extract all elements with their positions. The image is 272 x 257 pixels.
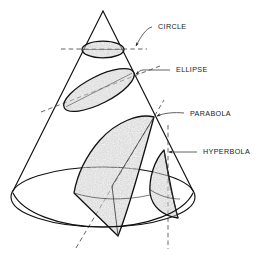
conic-sections-diagram: CIRCLE ELLIPSE PARABOLA HYPERBOLA [0, 0, 272, 257]
hyperbola-section [149, 150, 180, 218]
parabola-section [74, 116, 154, 236]
ellipse-section [58, 60, 140, 119]
annotation-layer: CIRCLE ELLIPSE PARABOLA HYPERBOLA [136, 22, 250, 156]
parabola-leader-line [157, 113, 184, 116]
conic-sections-figure: CIRCLE ELLIPSE PARABOLA HYPERBOLA [0, 0, 272, 257]
annotation-hyperbola[interactable]: HYPERBOLA [169, 147, 250, 156]
label-circle: CIRCLE [158, 22, 186, 31]
annotation-circle[interactable]: CIRCLE [136, 22, 186, 46]
annotation-ellipse[interactable]: ELLIPSE [136, 65, 208, 74]
label-parabola: PARABOLA [190, 109, 231, 118]
annotation-parabola[interactable]: PARABOLA [157, 109, 231, 118]
circle-leader-line [136, 27, 152, 46]
label-ellipse: ELLIPSE [176, 65, 208, 74]
ellipse-leader-line [136, 70, 170, 74]
parabola-section-fill [74, 116, 154, 236]
circle-section [82, 41, 124, 58]
hyperbola-section-fill [150, 150, 178, 218]
label-hyperbola: HYPERBOLA [203, 147, 250, 156]
